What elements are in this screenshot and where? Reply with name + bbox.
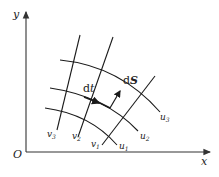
dt-tail [96, 101, 110, 108]
curve-labels: u3 u2 u1 v3 v2 v1 [47, 112, 170, 152]
u2-label: u2 [140, 131, 150, 142]
v3-label: v3 [47, 129, 56, 140]
v1-label: v1 [91, 139, 100, 150]
y-axis-label: y [12, 8, 20, 21]
vectors: dt dS [83, 74, 138, 108]
origin-label: O [13, 148, 22, 161]
x-axis-label: x [201, 155, 208, 168]
v-curves [57, 35, 155, 145]
dS-label: dS [123, 74, 138, 87]
u3-curve [60, 60, 160, 112]
axes: y x O [12, 8, 210, 168]
u1-label: u1 [119, 141, 129, 152]
dt-label: dt [83, 82, 95, 95]
coordinate-diagram: y x O dt dS u3 u2 u1 v3 v2 v1 [0, 0, 219, 177]
u3-label: u3 [160, 112, 170, 123]
dS-vector [110, 91, 120, 108]
